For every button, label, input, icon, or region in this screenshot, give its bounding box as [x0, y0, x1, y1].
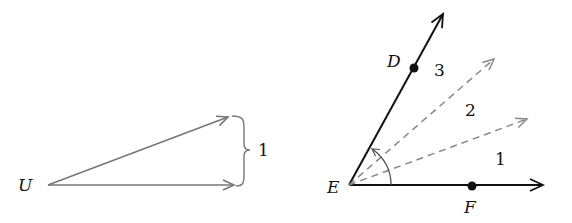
point-f-label: F	[463, 197, 477, 217]
ray-ed	[349, 14, 443, 185]
diagram-canvas: U 1 E D F 1 2 3	[0, 0, 572, 223]
brace-label: 1	[258, 140, 269, 160]
vertex-e-label: E	[326, 177, 340, 197]
point-d	[410, 64, 419, 73]
right-figure: E D F 1 2 3	[326, 14, 543, 217]
angle-arc-icon	[372, 149, 391, 185]
left-figure: U 1	[18, 116, 269, 195]
upper-arrow	[48, 117, 228, 185]
point-f	[468, 182, 477, 191]
point-d-label: D	[386, 51, 401, 71]
region-label-2: 2	[465, 100, 476, 120]
region-label-1: 1	[495, 149, 506, 169]
region-label-3: 3	[434, 60, 445, 80]
dashed-ray-upper	[349, 59, 494, 185]
point-u-label: U	[18, 175, 33, 195]
curly-brace-icon	[232, 116, 250, 186]
